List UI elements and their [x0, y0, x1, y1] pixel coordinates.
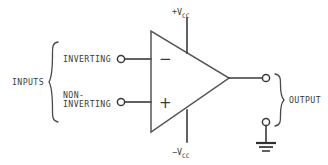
- opamp-diagram: +VCC −VCC INPUTS INVERTING NON- INVERTIN…: [0, 0, 328, 165]
- inverting-input-label: INVERTING: [63, 54, 111, 64]
- ground-icon: [256, 143, 276, 151]
- plus-sign-icon: +: [159, 94, 172, 112]
- amplifier-triangle: [151, 31, 229, 132]
- negative-supply-label: −VCC: [172, 147, 190, 159]
- output-terminal[interactable]: [262, 74, 269, 81]
- schematic-canvas: +VCC −VCC INPUTS INVERTING NON- INVERTIN…: [0, 0, 328, 165]
- positive-supply-label: +VCC: [172, 7, 190, 19]
- output-group-label: OUTPUT: [289, 95, 321, 105]
- inverting-input-terminal[interactable]: [117, 55, 124, 62]
- inputs-brace: [49, 42, 58, 122]
- noninverting-input-label-line2: INVERTING: [63, 99, 111, 109]
- noninverting-input-terminal[interactable]: [117, 98, 124, 105]
- output-brace: [275, 74, 284, 126]
- output-ground-terminal[interactable]: [262, 118, 269, 125]
- minus-sign-icon: −: [159, 50, 172, 68]
- inputs-group-label: INPUTS: [12, 77, 44, 87]
